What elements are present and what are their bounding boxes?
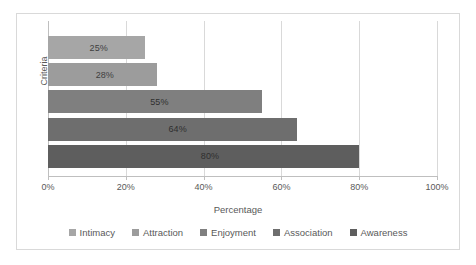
bar-row: 80% [48,143,437,170]
legend-item-attraction[interactable]: Attraction [132,227,183,238]
x-tick-label-60: 60% [272,182,290,192]
legend-swatch-icon [350,229,357,236]
bar-row: 28% [48,61,437,88]
x-tick-40 [204,176,205,180]
legend-item-label: Association [284,227,333,238]
legend-swatch-icon [132,229,139,236]
legend-item-enjoyment[interactable]: Enjoyment [200,227,256,238]
legend-item-label: Attraction [143,227,183,238]
bars-layer: 25%28%55%64%80% [48,34,437,170]
x-tick-label-40: 40% [195,182,213,192]
bar-awareness[interactable] [48,145,359,168]
legend-swatch-icon [200,229,207,236]
legend-swatch-icon [69,229,76,236]
bar-row: 64% [48,116,437,143]
x-tick-80 [359,176,360,180]
chart-container: Criteria 25%28%55%64%80% 0%20%40%60%80%1… [16,13,460,250]
x-tick-label-80: 80% [350,182,368,192]
x-tick-label-0: 0% [41,182,54,192]
legend-item-label: Intimacy [80,227,115,238]
legend-item-label: Awareness [361,227,408,238]
y-axis-title-text: Criteria [39,56,49,85]
bar-association[interactable] [48,118,297,141]
legend-swatch-icon [273,229,280,236]
x-tick-60 [281,176,282,180]
x-tick-0 [48,176,49,180]
bar-intimacy[interactable] [48,36,145,59]
plot-area: 25%28%55%64%80% [48,21,437,176]
legend-item-awareness[interactable]: Awareness [350,227,408,238]
x-axis-title: Percentage [17,204,459,215]
x-tick-label-20: 20% [117,182,135,192]
legend-item-intimacy[interactable]: Intimacy [69,227,115,238]
x-tick-100 [437,176,438,180]
bar-enjoyment[interactable] [48,90,262,113]
x-tick-20 [126,176,127,180]
bar-row: 25% [48,34,437,61]
y-axis-title: Criteria [29,66,43,76]
x-axis-line [48,176,437,177]
chart-legend: IntimacyAttractionEnjoymentAssociationAw… [17,227,459,238]
gridline-100 [437,21,438,176]
legend-item-label: Enjoyment [211,227,256,238]
bar-attraction[interactable] [48,63,157,86]
x-tick-label-100: 100% [425,182,448,192]
legend-item-association[interactable]: Association [273,227,333,238]
bar-row: 55% [48,88,437,115]
